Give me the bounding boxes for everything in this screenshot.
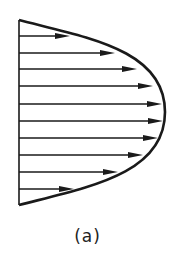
velocity-arrow	[19, 66, 137, 72]
arrowhead-icon	[128, 152, 143, 158]
velocity-arrow	[19, 50, 115, 56]
velocity-arrow	[19, 152, 143, 158]
velocity-arrow	[19, 186, 74, 192]
arrowhead-icon	[148, 118, 163, 124]
velocity-arrow	[19, 169, 118, 175]
arrowhead-icon	[122, 66, 137, 72]
velocity-arrow	[19, 83, 153, 89]
arrowhead-icon	[55, 33, 70, 39]
velocity-arrow	[19, 101, 162, 107]
velocity-arrow	[19, 118, 163, 124]
velocity-arrow	[19, 135, 158, 141]
velocity-profile-diagram	[0, 0, 175, 257]
arrowhead-icon	[143, 135, 158, 141]
profile-curve	[19, 20, 165, 205]
velocity-arrow	[19, 33, 70, 39]
arrowhead-icon	[100, 50, 115, 56]
figure-caption: (a)	[0, 226, 175, 246]
arrowhead-icon	[138, 83, 153, 89]
velocity-arrows	[19, 33, 163, 192]
parabolic-profile-curve	[19, 20, 165, 205]
arrowhead-icon	[147, 101, 162, 107]
arrowhead-icon	[103, 169, 118, 175]
